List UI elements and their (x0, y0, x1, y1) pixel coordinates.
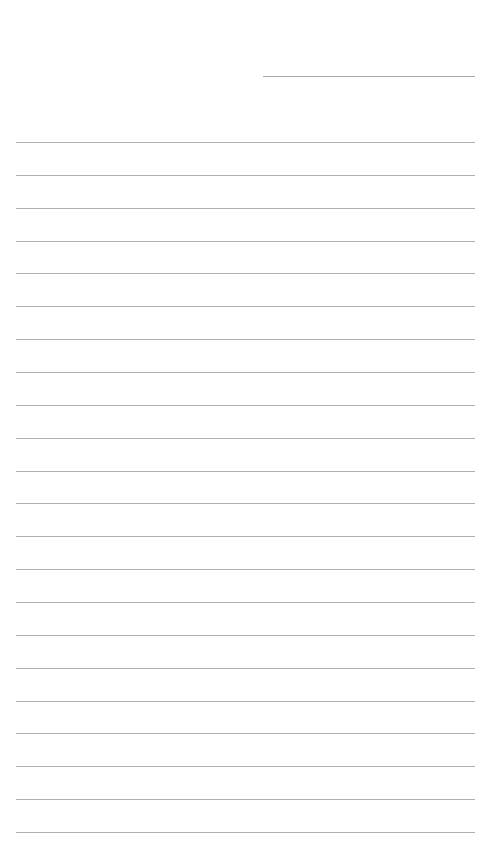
lined-paper-page (0, 0, 504, 864)
ruled-line (16, 503, 475, 504)
ruled-line (16, 405, 475, 406)
header-name-date-line (263, 76, 475, 77)
ruled-line (16, 536, 475, 537)
ruled-line (16, 306, 475, 307)
ruled-line (16, 635, 475, 636)
ruled-line (16, 766, 475, 767)
ruled-line (16, 701, 475, 702)
ruled-line (16, 241, 475, 242)
ruled-line (16, 208, 475, 209)
ruled-line (16, 733, 475, 734)
ruled-line (16, 799, 475, 800)
ruled-line (16, 273, 475, 274)
ruled-line (16, 569, 475, 570)
ruled-line (16, 668, 475, 669)
ruled-line (16, 602, 475, 603)
ruled-line (16, 339, 475, 340)
ruled-line (16, 372, 475, 373)
ruled-line (16, 471, 475, 472)
ruled-line (16, 832, 475, 833)
ruled-line (16, 175, 475, 176)
ruled-line (16, 438, 475, 439)
ruled-line (16, 142, 475, 143)
